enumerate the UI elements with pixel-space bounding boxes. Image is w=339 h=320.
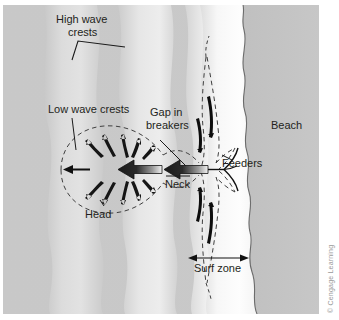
- copyright-credit: © Cengage Learning: [327, 245, 335, 313]
- label-feeders: Feeders: [222, 157, 263, 169]
- label-gap-in-breakers-line2: breakers: [146, 119, 189, 131]
- wave-crest-band-1: [44, 5, 103, 314]
- label-head: Head: [85, 208, 111, 220]
- label-neck: Neck: [165, 178, 191, 190]
- label-surf-zone: Surf zone: [194, 262, 241, 274]
- label-high-wave-crests-line2: crests: [68, 26, 98, 38]
- label-beach: Beach: [271, 119, 302, 131]
- label-low-wave-crests: Low wave crests: [48, 103, 130, 115]
- label-gap-in-breakers-line1: Gap in: [150, 106, 182, 118]
- rip-current-figure: High wave crests Low wave crests Gap in …: [0, 0, 339, 320]
- label-high-wave-crests-line1: High wave: [56, 13, 107, 25]
